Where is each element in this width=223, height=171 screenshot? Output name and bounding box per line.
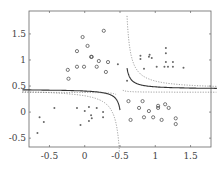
x-tick-label: 1.5: [183, 151, 198, 161]
data-point-dot: [102, 116, 104, 118]
data-point-dot: [163, 66, 165, 68]
data-point-dot: [117, 63, 119, 65]
y-tick-label: 1.5: [12, 29, 27, 39]
data-point-dot: [84, 110, 86, 112]
data-point-dot: [182, 67, 184, 69]
data-point-dot: [96, 107, 98, 109]
data-point-dot: [76, 107, 78, 109]
x-tick-label: -0.5: [111, 151, 129, 161]
data-point-dot: [172, 61, 174, 63]
x-tick-label: 0: [82, 151, 88, 161]
data-point-dot: [91, 117, 93, 119]
data-point-dot: [39, 116, 41, 118]
y-tick-label: -0.5: [9, 133, 27, 143]
data-point-dot: [102, 111, 104, 113]
data-point-dot: [90, 114, 92, 116]
data-point-dot: [139, 58, 141, 60]
data-point-dot: [165, 47, 167, 49]
plot-frame: [29, 11, 211, 147]
data-point-dot: [167, 66, 169, 68]
data-point-dot: [165, 52, 167, 54]
data-point-dot: [53, 107, 55, 109]
x-tick-label: -0.5: [41, 151, 59, 161]
data-point-dot: [79, 124, 81, 126]
y-tick-label: 0.5: [12, 81, 27, 91]
data-point-dot: [151, 57, 153, 59]
y-tick-label: 0: [20, 107, 26, 117]
data-point-dot: [139, 55, 141, 57]
data-point-dot: [43, 121, 45, 123]
data-point-dot: [172, 66, 174, 68]
data-point-dot: [88, 106, 90, 108]
data-point-dot: [149, 54, 151, 56]
data-point-dot: [126, 80, 128, 82]
x-tick-label: 1: [152, 151, 158, 161]
data-point-dot: [143, 68, 145, 70]
data-point-dot: [36, 132, 38, 134]
data-point-dot: [165, 61, 167, 63]
data-point-dot: [148, 56, 150, 58]
data-point-dot: [88, 120, 90, 122]
y-tick-label: 1: [20, 55, 26, 65]
chart: -0.50-0.511.5 1.510.50-0.5: [0, 0, 223, 171]
data-point-dot: [156, 66, 158, 68]
